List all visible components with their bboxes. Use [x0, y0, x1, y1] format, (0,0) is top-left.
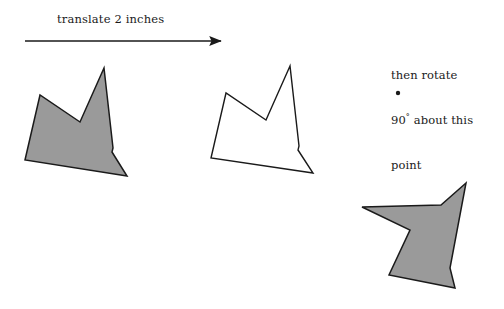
translate-caption: translate 2 inches	[57, 12, 164, 27]
rotate-caption-line-2: 90° about this	[391, 113, 473, 128]
rotate-angle-value: 90	[391, 113, 406, 127]
rotate-caption-line-3: point	[391, 158, 473, 173]
rotate-caption: then rotate 90° about this point	[391, 38, 473, 202]
rotate-caption-line-1: then rotate	[391, 68, 473, 83]
translated-white-polygon	[211, 66, 313, 173]
original-gray-polygon	[25, 68, 127, 176]
rotate-caption-line-2-rest: about this	[410, 113, 473, 127]
geometry-figure-canvas: translate 2 inches then rotate 90° about…	[0, 0, 504, 309]
